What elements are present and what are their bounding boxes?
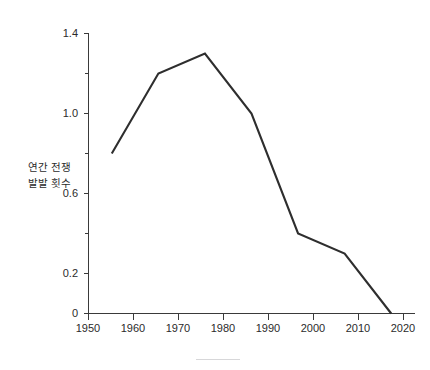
y-axis-title-line2: 발발 횟수	[28, 177, 71, 189]
x-tick-label-1970: 1970	[166, 322, 190, 334]
x-tick-label-2010: 2010	[346, 322, 370, 334]
y-tick-label-1.4: 1.4	[63, 27, 78, 39]
x-tick-label-2020: 2020	[391, 322, 415, 334]
x-tick-label-1960: 1960	[121, 322, 145, 334]
x-tick-label-1980: 1980	[211, 322, 235, 334]
x-tick-label-1950: 1950	[76, 322, 100, 334]
y-tick-label-0.2: 0.2	[63, 267, 78, 279]
line-chart-figure: 1.4 1.0 0.6 0.2 0 1950 1960 1970 1980 19…	[0, 0, 430, 370]
y-tick-label-0: 0	[72, 307, 78, 319]
x-tick-label-2000: 2000	[301, 322, 325, 334]
data-series-line	[112, 54, 391, 314]
chart-plot-area: 1.4 1.0 0.6 0.2 0 1950 1960 1970 1980 19…	[0, 0, 430, 370]
y-tick-label-1.0: 1.0	[63, 107, 78, 119]
x-tick-label-1990: 1990	[256, 322, 280, 334]
footer-rule	[196, 359, 240, 360]
y-axis-title-line1: 연간 전쟁	[28, 161, 71, 173]
